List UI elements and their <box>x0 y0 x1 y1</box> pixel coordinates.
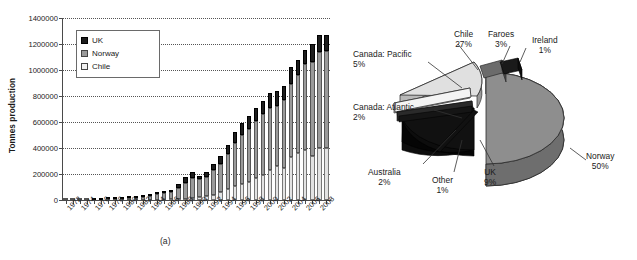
bar-segment-norway <box>204 177 208 197</box>
bar-segment-uk <box>268 93 272 107</box>
y-axis-tick-label: 400000 <box>33 144 58 153</box>
gridline <box>62 18 330 19</box>
bar-segment-uk <box>183 177 187 183</box>
pie-label-canada-pacific: Canada: Pacific 5% <box>353 50 412 70</box>
bar-segment-uk <box>317 35 321 52</box>
bar-segment-uk <box>296 60 300 76</box>
bar-segment-chile <box>275 166 279 200</box>
pie-label-canada-atlantic: Canada: Atlantic 2% <box>353 103 414 123</box>
bar-segment-chile <box>289 157 293 200</box>
y-axis-tick-mark <box>59 18 62 19</box>
legend-swatch-uk <box>81 37 88 44</box>
bar-segment-norway <box>233 143 237 186</box>
bar-1995 <box>226 145 230 200</box>
pie-chart-panel: Chile 27% Canada: Pacific 5% Canada: Atl… <box>350 0 637 260</box>
legend-item-chile: Chile <box>81 60 155 73</box>
bar-segment-uk <box>247 116 251 128</box>
pie-label-norway: Norway 50% <box>586 152 614 172</box>
y-axis-tick-label: 200000 <box>33 170 58 179</box>
bar-segment-chile <box>317 148 321 200</box>
y-axis-tick-label: 1000000 <box>28 66 58 75</box>
y-axis-tick-mark <box>59 148 62 149</box>
bar-segment-uk <box>176 184 180 188</box>
figure-container: Tonnes production 0200000400000600000800… <box>0 0 637 260</box>
bar-segment-uk <box>190 172 194 178</box>
bar-segment-chile <box>303 150 307 200</box>
bar-segment-norway <box>310 62 314 156</box>
y-axis-tick-mark <box>59 96 62 97</box>
bar-segment-norway <box>247 129 251 182</box>
pie-label-australia: Australia 2% <box>368 168 401 188</box>
caption-a: (a) <box>160 236 171 246</box>
bar-segment-chile <box>310 156 314 200</box>
bar-segment-uk <box>310 44 314 62</box>
bar-2009 <box>324 35 328 200</box>
pie-label-ireland: Ireland 1% <box>532 36 558 56</box>
bar-segment-uk <box>261 101 265 114</box>
bar-segment-norway <box>254 121 258 178</box>
bar-2007 <box>310 44 314 200</box>
legend-label-uk: UK <box>92 36 103 45</box>
legend-item-uk: UK <box>81 34 155 47</box>
legend-swatch-chile <box>81 63 88 70</box>
bar-2001 <box>268 93 272 200</box>
pie-label-faroes: Faroes 3% <box>488 30 514 50</box>
bar-segment-norway <box>268 108 272 170</box>
y-axis-tick-label: 1400000 <box>28 14 58 23</box>
bar-segment-chile <box>324 148 328 200</box>
bar-1999 <box>254 108 258 200</box>
legend-swatch-norway <box>81 50 88 57</box>
bar-segment-uk <box>289 67 293 84</box>
bar-segment-uk <box>162 191 166 193</box>
bar-segment-uk <box>211 164 215 170</box>
bar-segment-uk <box>275 91 279 107</box>
bar-2003 <box>282 86 286 200</box>
bar-segment-norway <box>218 164 222 193</box>
bar-2004 <box>289 67 293 200</box>
bar-segment-uk <box>240 123 244 135</box>
bar-segment-norway <box>240 135 244 184</box>
bar-segment-norway <box>275 106 279 166</box>
bar-segment-uk <box>197 176 201 179</box>
pie-label-other: Other 1% <box>432 176 453 196</box>
bar-segment-uk <box>226 145 230 154</box>
legend-label-norway: Norway <box>92 49 119 58</box>
y-axis-tick-label: 0 <box>54 196 58 205</box>
bar-1996 <box>233 132 237 200</box>
bar-segment-norway <box>317 52 321 148</box>
bar-segment-uk <box>303 50 307 64</box>
bar-2005 <box>296 60 300 200</box>
legend-item-norway: Norway <box>81 47 155 60</box>
pie-slice-norway <box>486 72 564 186</box>
bar-1998 <box>247 116 251 200</box>
y-axis-tick-mark <box>59 200 62 201</box>
y-axis-tick-label: 800000 <box>33 92 58 101</box>
pie-label-chile: Chile 27% <box>454 30 473 50</box>
bar-segment-norway <box>261 114 265 175</box>
chart-legend: UK Norway Chile <box>76 30 160 78</box>
bar-segment-norway <box>190 178 194 199</box>
bar-segment-norway <box>289 84 293 157</box>
bar-segment-uk <box>218 156 222 164</box>
legend-label-chile: Chile <box>92 62 110 71</box>
bar-2006 <box>303 50 307 200</box>
bar-chart-panel: Tonnes production 0200000400000600000800… <box>0 0 350 260</box>
bar-segment-norway <box>303 64 307 150</box>
bar-segment-chile <box>296 153 300 200</box>
bar-segment-uk <box>155 192 159 194</box>
bar-2008 <box>317 35 321 200</box>
bar-1994 <box>218 156 222 200</box>
bar-2002 <box>275 91 279 200</box>
bar-1997 <box>240 123 244 200</box>
bar-1993 <box>211 164 215 200</box>
bar-segment-norway <box>296 75 300 153</box>
bar-segment-norway <box>211 170 215 195</box>
y-axis-tick-label: 600000 <box>33 118 58 127</box>
bar-segment-uk <box>169 190 173 192</box>
bar-2000 <box>261 101 265 200</box>
bar-segment-norway <box>282 100 286 168</box>
bar-segment-uk <box>204 172 208 177</box>
bar-segment-uk <box>324 35 328 51</box>
pie-label-uk: UK 9% <box>484 168 496 188</box>
bar-segment-uk <box>233 132 237 143</box>
